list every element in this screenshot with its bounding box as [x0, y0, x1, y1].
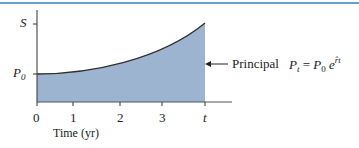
annotation-label: Principal	[232, 57, 279, 70]
x-tick-label-3: 3	[159, 111, 166, 124]
x-tick-label-0: 0	[33, 111, 40, 124]
x-tick-label-1: 1	[70, 111, 77, 124]
annotation-arrow-head-icon	[205, 61, 211, 67]
x-tick-label-2: 2	[117, 111, 124, 124]
y-label-s: S	[20, 16, 27, 29]
formula: Pt = P0 er̂t	[289, 56, 341, 74]
y-label-p0: P0	[13, 66, 25, 82]
x-tick-label-t: t	[203, 111, 207, 124]
x-axis-title: Time (yr)	[53, 127, 99, 139]
principal-area	[37, 23, 205, 102]
